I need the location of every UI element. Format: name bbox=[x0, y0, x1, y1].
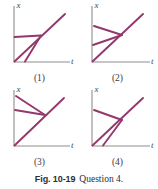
graph-panel-1: x t (1) bbox=[0, 0, 79, 82]
plot-lines-3 bbox=[15, 96, 65, 146]
upper-line-from-axis bbox=[94, 26, 122, 35]
shallow-line-from-left bbox=[15, 36, 42, 38]
figure-caption: Fig. 10-19Question 4. bbox=[0, 168, 158, 186]
panel-label-1: (1) bbox=[0, 73, 79, 83]
main-line bbox=[15, 98, 65, 146]
graph-panel-3: x t (3) bbox=[0, 84, 79, 166]
graph-svg-2: x t bbox=[78, 0, 157, 74]
caption-figure-number: Fig. 10-19 bbox=[35, 174, 76, 184]
x-axis-label: t bbox=[71, 56, 74, 66]
panel-label-4: (4) bbox=[78, 157, 157, 167]
y-axis-label: x bbox=[94, 0, 99, 10]
graph-svg-3: x t bbox=[0, 84, 79, 158]
panel-label-3: (3) bbox=[0, 157, 79, 167]
plot-lines-1 bbox=[15, 14, 66, 62]
y-axis-label: x bbox=[16, 84, 21, 94]
y-axis-label: x bbox=[94, 84, 99, 94]
caption-question-text: Question 4. bbox=[79, 174, 123, 184]
panel-grid: x t (1) x t bbox=[0, 0, 158, 164]
x-axis-label: t bbox=[71, 140, 74, 150]
figure-root: x t (1) x t bbox=[0, 0, 158, 189]
graph-panel-4: x t (4) bbox=[78, 84, 157, 166]
main-line bbox=[93, 14, 144, 62]
plot-lines-2 bbox=[93, 14, 144, 62]
x-axis-label: t bbox=[151, 140, 154, 150]
upper-line-from-axis bbox=[94, 110, 122, 120]
graph-svg-1: x t bbox=[0, 0, 79, 74]
graph-svg-4: x t bbox=[78, 84, 157, 158]
plot-lines-4 bbox=[93, 98, 144, 146]
graph-panel-2: x t (2) bbox=[78, 0, 157, 82]
y-axis-label: x bbox=[16, 0, 21, 10]
x-axis-label: t bbox=[151, 56, 154, 66]
main-line bbox=[93, 98, 144, 146]
lower-line-from-axis bbox=[93, 35, 122, 45]
panel-label-2: (2) bbox=[78, 73, 157, 83]
